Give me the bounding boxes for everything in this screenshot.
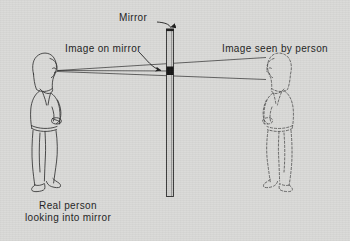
person-collar-v2 bbox=[48, 93, 51, 105]
image-jacket-hem bbox=[268, 129, 293, 132]
person-hair bbox=[33, 53, 57, 91]
image-jacket-back bbox=[285, 91, 294, 129]
ray-upper bbox=[58, 58, 267, 71]
mirror-body bbox=[167, 31, 174, 197]
person-collar-v bbox=[43, 92, 47, 105]
caption-line-1: Real person bbox=[12, 200, 124, 212]
mirror-leader-curve bbox=[157, 22, 171, 28]
ray-lines bbox=[58, 58, 267, 80]
caption-line-2: looking into mirror bbox=[12, 212, 124, 224]
person-pants-inseam bbox=[44, 132, 45, 182]
image-pants-back bbox=[289, 131, 292, 186]
person-jacket-back bbox=[31, 91, 40, 129]
virtual-image-figure bbox=[263, 53, 294, 192]
image-hair bbox=[268, 53, 292, 91]
label-mirror: Mirror bbox=[119, 12, 147, 24]
image-jacket-hem2 bbox=[267, 126, 293, 129]
ray-upper-reflected bbox=[58, 71, 171, 72]
image-pants-front bbox=[267, 131, 271, 184]
person-jacket-hem bbox=[32, 129, 57, 132]
image-pants-inseam bbox=[278, 132, 279, 182]
person-pants-back bbox=[32, 131, 35, 186]
real-person-figure bbox=[31, 53, 62, 192]
person-shoe-back bbox=[32, 184, 45, 192]
image-on-mirror-leader-curve bbox=[139, 52, 161, 71]
image-collar-v bbox=[278, 92, 282, 105]
person-eye bbox=[53, 68, 56, 69]
mirror-object bbox=[166, 29, 174, 197]
image-collar-v2 bbox=[274, 93, 277, 105]
mirror-top-cap bbox=[166, 29, 174, 32]
person-pants-crease bbox=[39, 133, 40, 172]
image-shoe-back bbox=[279, 184, 292, 192]
mirror-leader bbox=[157, 22, 171, 28]
image-shoe-front bbox=[263, 179, 277, 188]
image-on-mirror-leader bbox=[139, 52, 161, 71]
person-pants-front bbox=[54, 131, 58, 184]
mirror-image-patch bbox=[167, 67, 174, 76]
image-eye bbox=[268, 68, 271, 69]
figure-canvas: Mirror Image on mirror Image seen by per… bbox=[0, 0, 350, 241]
label-image-on-mirror: Image on mirror bbox=[65, 43, 141, 55]
ray-lower bbox=[58, 72, 267, 80]
image-pants-crease bbox=[284, 133, 285, 172]
caption-real-person: Real person looking into mirror bbox=[12, 200, 124, 223]
person-jacket-hem2 bbox=[31, 126, 57, 129]
label-image-seen-by-person: Image seen by person bbox=[222, 43, 328, 55]
